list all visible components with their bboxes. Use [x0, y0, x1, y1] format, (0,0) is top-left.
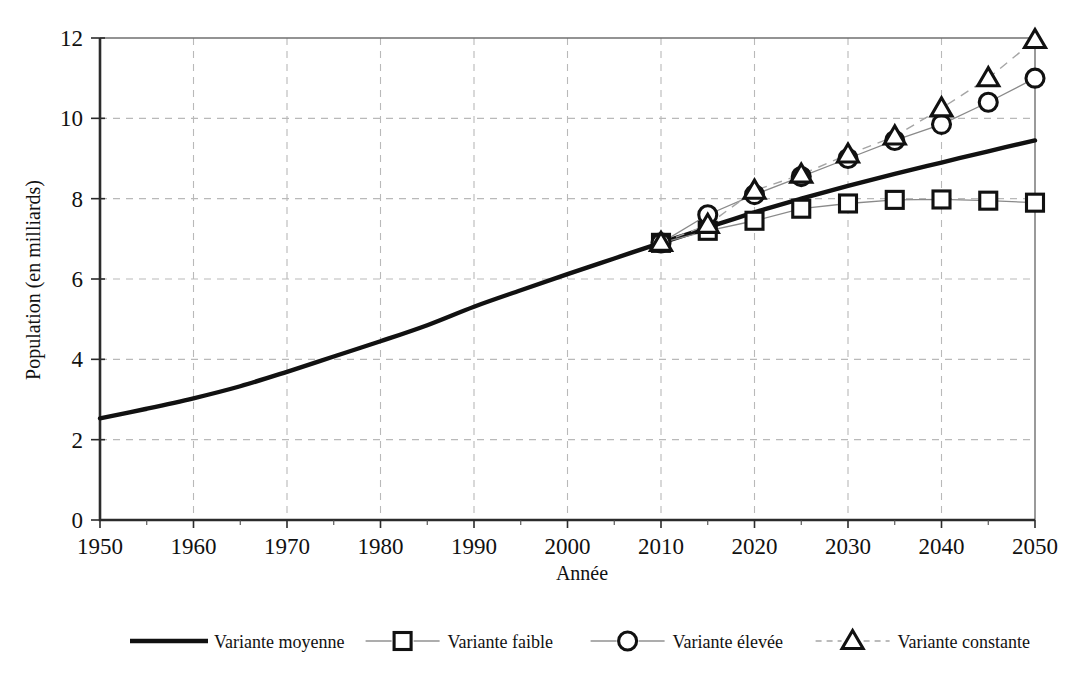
- x-tick-label: 1970: [264, 534, 310, 559]
- data-point-circle: [1026, 69, 1044, 87]
- data-point-circle: [933, 115, 951, 133]
- y-tick-label: 8: [72, 187, 84, 212]
- legend-marker-circle: [619, 632, 637, 650]
- grid-lines: [100, 38, 1035, 520]
- chart-canvas: 1950196019701980199020002010202020302040…: [0, 0, 1083, 690]
- x-axis-title: Année: [556, 562, 608, 584]
- data-point-square: [793, 200, 810, 217]
- legend-label-1: Variante faible: [448, 632, 553, 652]
- y-tick-label: 2: [72, 428, 84, 453]
- y-tick-label: 12: [60, 26, 83, 51]
- legend-label-2: Variante élevée: [673, 632, 783, 652]
- x-tick-label: 1980: [358, 534, 404, 559]
- legend-label-3: Variante constante: [898, 632, 1030, 652]
- data-point-circle: [979, 93, 997, 111]
- x-tick-label: 2030: [825, 534, 871, 559]
- data-point-square: [980, 192, 997, 209]
- x-tick-label: 2040: [919, 534, 965, 559]
- data-point-square: [933, 191, 950, 208]
- y-axis-title: Population (en milliards): [22, 180, 45, 380]
- y-tick-label: 10: [60, 106, 83, 131]
- x-tick-label: 2050: [1012, 534, 1058, 559]
- data-point-square: [746, 212, 763, 229]
- data-markers: [651, 30, 1046, 252]
- x-axis-tick-labels: 1950196019701980199020002010202020302040…: [77, 534, 1058, 559]
- x-tick-label: 1960: [171, 534, 217, 559]
- y-axis-tick-labels: 024681012: [60, 26, 84, 533]
- axis-ticks: [91, 38, 1035, 528]
- data-point-triangle: [931, 98, 952, 116]
- data-point-square: [886, 191, 903, 208]
- x-tick-label: 2000: [545, 534, 591, 559]
- x-tick-label: 2010: [638, 534, 684, 559]
- legend-label-0: Variante moyenne: [214, 632, 344, 652]
- data-point-square: [1027, 194, 1044, 211]
- chart-legend: Variante moyenneVariante faibleVariante …: [130, 631, 1030, 653]
- y-tick-label: 0: [72, 508, 84, 533]
- data-point-square: [840, 195, 857, 212]
- population-projection-chart: 1950196019701980199020002010202020302040…: [0, 0, 1083, 690]
- x-tick-label: 1950: [77, 534, 123, 559]
- y-tick-label: 4: [72, 347, 84, 372]
- data-point-triangle: [978, 68, 999, 86]
- x-tick-label: 2020: [732, 534, 778, 559]
- x-tick-label: 1990: [451, 534, 497, 559]
- legend-marker-triangle: [842, 631, 863, 649]
- legend-marker-square: [394, 633, 411, 650]
- y-tick-label: 6: [72, 267, 84, 292]
